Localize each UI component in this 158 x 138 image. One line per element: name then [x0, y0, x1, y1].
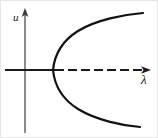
lambda-axis [5, 66, 151, 74]
bifurcation-diagram: u λ [0, 0, 158, 138]
lambda-axis-label: λ [141, 73, 147, 86]
plot-canvas [0, 0, 158, 138]
upper-branch-path [53, 13, 143, 70]
u-axis-label: u [13, 12, 19, 23]
lower-branch-path [53, 70, 140, 127]
